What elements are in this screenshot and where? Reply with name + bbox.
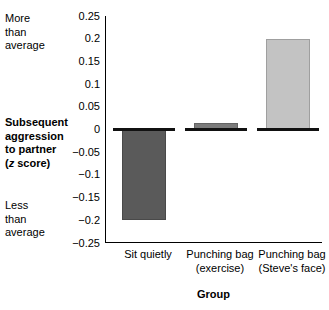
y-axis-tick-label: −0.1 [55,169,100,180]
bar-group [257,16,329,242]
less-than-average-annotation: Less than average [5,199,45,240]
y-axis-tick-label: 0 [55,124,100,135]
bar-baseline-rule [113,128,175,130]
x-axis-tick-label-line-2: (Steve's face) [244,262,329,276]
bar[interactable] [122,130,166,221]
y-axis-tick-label: −0.15 [55,192,100,203]
y-axis-tick-label: −0.25 [55,238,100,249]
bar[interactable] [266,39,310,130]
x-axis-tick-label: Punching bag(Steve's face) [244,248,329,275]
y-axis-tick-label: 0.05 [55,101,100,112]
x-axis-tick-label-line-1: Punching bag [244,248,329,262]
x-axis-tick-labels: Sit quietlyPunching bag(exercise)Punchin… [105,248,322,284]
x-axis-title: Group [105,288,322,300]
more-than-average-line-2: than [5,26,45,40]
y-axis-tick-label: −0.2 [55,215,100,226]
plot-area [105,16,322,243]
more-than-average-line-3: average [5,39,45,53]
bar-baseline-rule [257,128,319,130]
bars-container [106,16,322,242]
less-than-average-line-3: average [5,226,45,240]
more-than-average-line-1: More [5,12,45,26]
bar-group [113,16,185,242]
y-axis-tick-label: 0.15 [55,56,100,67]
y-axis-tick-label: 0.25 [55,11,100,22]
y-axis-title-score-text: score) [14,157,50,169]
y-axis-tick-label: −0.05 [55,147,100,158]
bar-baseline-rule [185,128,247,130]
bar-chart-figure: More than average Subsequent aggression … [0,0,329,310]
bar-group [185,16,257,242]
more-than-average-annotation: More than average [5,12,45,53]
y-axis-tick-label: 0.2 [55,33,100,44]
less-than-average-line-1: Less [5,199,45,213]
y-axis-tick-label: 0.1 [55,79,100,90]
y-axis-tick-labels: 0.250.20.150.10.050−0.05−0.1−0.15−0.2−0.… [55,0,100,310]
less-than-average-line-2: than [5,213,45,227]
